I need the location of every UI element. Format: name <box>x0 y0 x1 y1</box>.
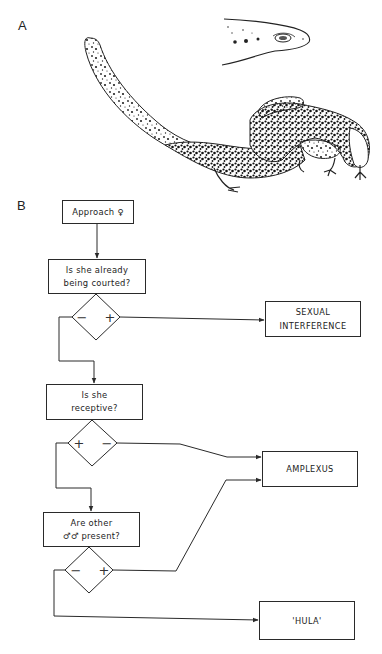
outcome-hula-box: 'HULA' <box>259 601 355 640</box>
question-already-courted-line2: being courted? <box>64 277 131 290</box>
salamander-head-inset <box>222 19 310 65</box>
decision-2-positive-sign: + <box>74 437 85 450</box>
decision-1-negative-sign: − <box>77 311 88 324</box>
outcome-sexual-interference-box: SEXUAL INTERFERENCE <box>265 301 361 337</box>
decision-3-positive-sign: + <box>99 564 110 577</box>
question-other-males-box: Are other ♂♂ present? <box>43 512 140 547</box>
question-receptive-line2: receptive? <box>71 402 118 415</box>
question-receptive-line1: Is she <box>81 389 107 402</box>
salamander-amplexus-illustration <box>85 38 370 192</box>
question-other-males-line2: ♂♂ present? <box>63 530 120 543</box>
outcome-hula-label: 'HULA' <box>292 614 321 628</box>
question-already-courted-box: Is she already being courted? <box>48 259 146 294</box>
outcome-amplexus-box: AMPLEXUS <box>262 451 358 487</box>
decision-1-positive-sign: + <box>105 311 116 324</box>
outcome-sexual-interference-line2: INTERFERENCE <box>280 319 347 333</box>
question-receptive-box: Is she receptive? <box>46 384 143 420</box>
outcome-sexual-interference-line1: SEXUAL <box>296 305 331 319</box>
decision-3-negative-sign: − <box>71 564 82 577</box>
start-approach-box: Approach ♀ <box>62 200 134 224</box>
question-other-males-line1: Are other <box>71 517 113 530</box>
question-already-courted-line1: Is she already <box>66 264 128 277</box>
outcome-amplexus-label: AMPLEXUS <box>286 462 333 476</box>
start-approach-label: Approach ♀ <box>72 206 124 219</box>
decision-2-negative-sign: − <box>102 437 113 450</box>
